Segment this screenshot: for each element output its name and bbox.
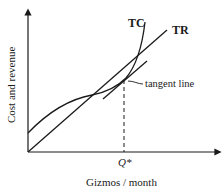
tr-line xyxy=(28,30,167,152)
y-axis-label: Cost and revenue xyxy=(5,47,17,123)
tangent-pointer xyxy=(128,81,143,84)
qstar-label: Q* xyxy=(118,156,132,168)
tr-label: TR xyxy=(172,23,189,37)
tangent-label: tangent line xyxy=(145,78,195,89)
profit-maximization-diagram: TC TR tangent line Q* Gizmos / month Cos… xyxy=(0,0,223,192)
tc-label: TC xyxy=(128,16,145,30)
x-axis-label: Gizmos / month xyxy=(86,176,157,188)
